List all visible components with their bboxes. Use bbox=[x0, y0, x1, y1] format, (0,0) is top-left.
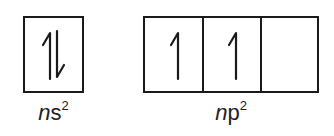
up-down-arrow-icon bbox=[39, 27, 69, 83]
principal-quantum-n: n bbox=[38, 100, 50, 125]
subshell-letter: p bbox=[227, 100, 239, 125]
ns-orbital-box bbox=[23, 16, 84, 93]
ns-label: ns2 bbox=[23, 98, 84, 126]
up-arrow-icon bbox=[166, 27, 186, 83]
np-orbital-box bbox=[143, 16, 319, 93]
cell-divider bbox=[202, 18, 204, 91]
electron-count: 2 bbox=[62, 98, 69, 113]
principal-quantum-n: n bbox=[215, 100, 227, 125]
electron-count: 2 bbox=[240, 98, 247, 113]
up-arrow-icon bbox=[224, 27, 244, 83]
subshell-letter: s bbox=[51, 100, 62, 125]
np-label: np2 bbox=[143, 98, 319, 126]
cell-divider bbox=[260, 18, 262, 91]
